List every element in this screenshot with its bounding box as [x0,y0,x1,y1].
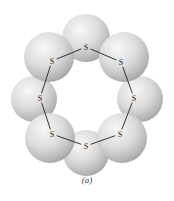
s8-ring-diagram: SSSSSSSS [0,0,174,201]
figure-caption: (a) [0,175,174,185]
sulfur-atom-label: S [132,94,136,103]
sulfur-atom-label: S [119,58,123,67]
atom-spheres [11,14,163,176]
sulfur-atom-label: S [50,57,54,66]
sulfur-atom-label: S [118,130,122,139]
sulfur-atom-label: S [84,43,88,52]
sulfur-atom-label: S [50,130,54,139]
sulfur-atom-label: S [38,94,42,103]
sulfur-atom-label: S [84,142,88,151]
sulfur-sphere [99,32,149,82]
